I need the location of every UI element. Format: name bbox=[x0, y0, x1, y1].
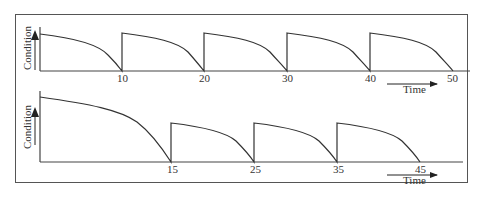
bottom-tick-15: 15 bbox=[167, 163, 179, 175]
top-tick-10: 10 bbox=[117, 72, 129, 84]
bottom-tick-35: 35 bbox=[333, 163, 345, 175]
top-tick-20: 20 bbox=[199, 72, 211, 84]
bottom-y-label: Condition bbox=[21, 104, 39, 149]
top-x-label: Time bbox=[403, 83, 426, 95]
bottom-tick-25: 25 bbox=[250, 163, 262, 175]
bottom-y-label-text: Condition bbox=[21, 104, 33, 149]
top-tick-30: 30 bbox=[282, 72, 294, 84]
top-panel: Condition 10 20 30 40 50 Time bbox=[21, 25, 470, 95]
top-y-label-text: Condition bbox=[21, 25, 33, 70]
bottom-x-label: Time bbox=[403, 174, 426, 186]
top-tick-50: 50 bbox=[447, 72, 459, 84]
condition-time-diagram: Condition 10 20 30 40 50 Time Condition … bbox=[0, 0, 483, 197]
top-tick-40: 40 bbox=[365, 72, 377, 84]
bottom-panel: Condition 15 25 35 45 Time bbox=[21, 91, 463, 186]
top-condition-curve bbox=[40, 33, 453, 71]
top-y-label: Condition bbox=[21, 25, 39, 70]
bottom-condition-curve bbox=[40, 97, 420, 162]
